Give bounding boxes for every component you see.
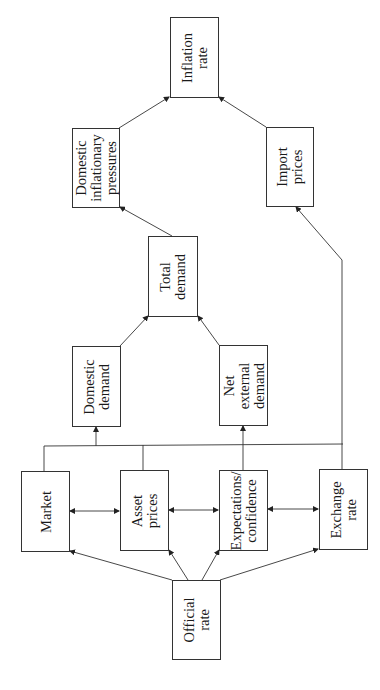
node-total-demand: Total demand	[148, 236, 198, 317]
node-domestic-demand: Domestic demand	[72, 346, 121, 427]
node-label: Expectations/ confidence	[229, 471, 259, 550]
node-label: Official rate	[182, 598, 212, 643]
node-expectations-confidence: Expectations/ confidence	[219, 470, 268, 551]
node-asset-prices: Asset prices	[120, 470, 169, 551]
node-label: Exchange rate	[329, 481, 359, 538]
node-label: Asset prices	[130, 493, 160, 528]
node-label: Market	[38, 491, 53, 533]
node-label: Inflation rate	[180, 33, 210, 83]
node-market: Market	[21, 471, 70, 552]
node-official-rate: Official rate	[172, 580, 221, 660]
node-label: Import prices	[275, 147, 305, 186]
node-inflation-rate: Inflation rate	[170, 17, 219, 98]
node-domestic-inflationary-pressures: Domestic inflationary pressures	[72, 128, 120, 208]
node-label: Domestic demand	[82, 359, 112, 415]
node-label: Total demand	[158, 254, 188, 300]
node-exchange-rate: Exchange rate	[319, 469, 368, 550]
node-net-external-demand: Net external demand	[219, 345, 268, 426]
node-label: Domestic inflationary pressures	[74, 134, 119, 202]
node-import-prices: Import prices	[266, 127, 314, 207]
node-label: Net external demand	[221, 362, 266, 409]
